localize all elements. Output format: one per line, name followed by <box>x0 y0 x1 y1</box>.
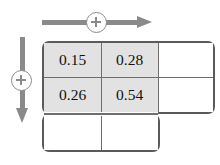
plus-vertical-bar <box>20 75 22 86</box>
grid-cell-r1c1: 0.15 <box>44 43 101 78</box>
plus-circle-icon-horizontal <box>86 12 107 33</box>
arrow-right-head <box>137 16 152 28</box>
grid-cell-r3c2 <box>101 116 158 149</box>
grid-cell-r2c3 <box>158 78 212 112</box>
grid-seam-line <box>44 113 158 114</box>
grid-cell-r3c1 <box>44 116 101 149</box>
arrow-down-head <box>16 108 28 123</box>
grid-divider-vertical-3 <box>101 116 102 149</box>
figure-canvas: 0.15 0.28 0.26 0.54 <box>0 0 220 165</box>
grid-divider-horizontal-1 <box>44 77 213 78</box>
grid-cell-r1c3 <box>158 43 212 78</box>
plus-circle-icon-vertical <box>11 70 32 91</box>
grid-cell-r2c1: 0.26 <box>44 78 101 112</box>
grid-cell-r2c2: 0.54 <box>101 78 158 112</box>
plus-vertical-bar <box>95 17 97 28</box>
grid-cell-r1c2: 0.28 <box>101 43 158 78</box>
